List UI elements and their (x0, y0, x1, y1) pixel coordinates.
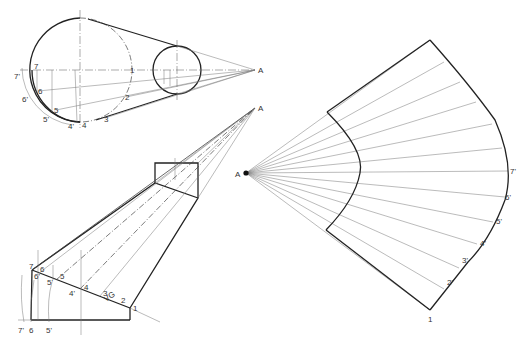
svg-text:6: 6 (29, 326, 34, 335)
svg-text:5': 5' (46, 326, 52, 335)
svg-text:6': 6' (34, 272, 40, 281)
svg-text:5': 5' (47, 278, 53, 287)
apex-label-front: A (258, 104, 264, 113)
apex-label-development: A (235, 170, 241, 179)
svg-text:1: 1 (130, 66, 135, 75)
development-pattern: A 7' 6' 5' 4' 3' 2' 1 (235, 40, 516, 324)
svg-text:4: 4 (82, 121, 87, 130)
svg-text:1: 1 (428, 315, 433, 324)
front-view: A VG 7 6 6' 5 5' 4 4' 3 2 1 7' 6 5' (18, 104, 264, 335)
svg-text:3': 3' (462, 256, 468, 265)
svg-text:2': 2' (447, 278, 453, 287)
svg-text:3: 3 (103, 289, 108, 298)
top-view: A 1 2 3 4 5 6 7 7' 6' 5' 4' (14, 10, 264, 131)
svg-text:3: 3 (104, 115, 109, 124)
svg-text:6': 6' (22, 95, 28, 104)
svg-text:4': 4' (480, 239, 486, 248)
svg-text:4': 4' (68, 122, 74, 131)
svg-text:6: 6 (38, 87, 43, 96)
svg-text:6': 6' (505, 193, 511, 202)
svg-text:4: 4 (84, 283, 89, 292)
technical-drawing: A 1 2 3 4 5 6 7 7' 6' 5' 4' (0, 0, 532, 343)
svg-text:7': 7' (14, 72, 20, 81)
svg-text:1: 1 (133, 304, 138, 313)
svg-text:7': 7' (18, 326, 24, 335)
svg-text:4': 4' (69, 289, 75, 298)
svg-text:7: 7 (34, 62, 39, 71)
svg-text:5: 5 (60, 272, 65, 281)
svg-text:2: 2 (125, 93, 130, 102)
svg-text:5': 5' (496, 217, 502, 226)
svg-text:7: 7 (29, 262, 34, 271)
svg-text:2: 2 (121, 296, 126, 305)
apex-label-top: A (258, 66, 264, 75)
svg-text:5: 5 (54, 106, 59, 115)
svg-text:6: 6 (40, 265, 45, 274)
svg-text:7': 7' (510, 167, 516, 176)
svg-text:5': 5' (43, 115, 49, 124)
